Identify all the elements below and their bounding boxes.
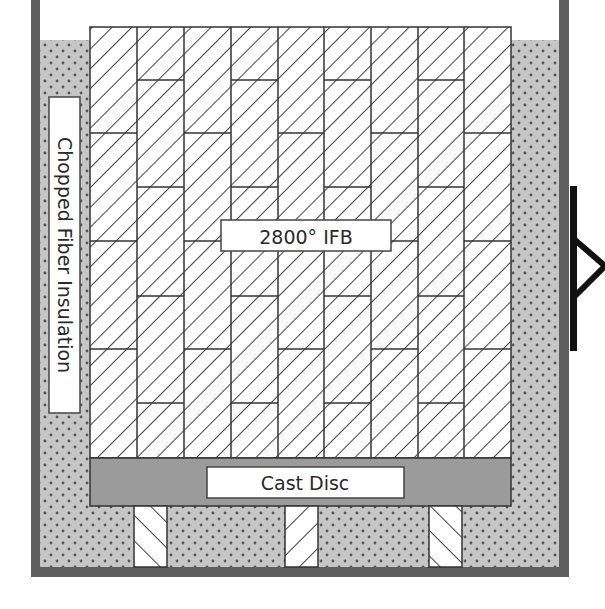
shell-left-wall [31,0,40,577]
cast-disc: Cast Disc [90,458,511,506]
support-leg-middle [285,506,318,567]
shell-bottom [31,567,569,577]
wall-label-text: 2800° IFB [259,226,352,248]
kiln-cross-section-diagram: 2800° IFB Cast Disc Chopped Fiber Insula… [0,0,605,609]
hinge-handle-icon [570,186,605,351]
wall-label: 2800° IFB [221,220,391,251]
cast-disc-label: Cast Disc [261,472,350,494]
shell-right-wall [559,0,569,577]
insulation-label-text: Chopped Fiber Insulation [54,137,76,373]
insulation-label: Chopped Fiber Insulation [49,97,80,413]
support-leg-right [429,506,462,567]
support-leg-left [134,506,167,567]
